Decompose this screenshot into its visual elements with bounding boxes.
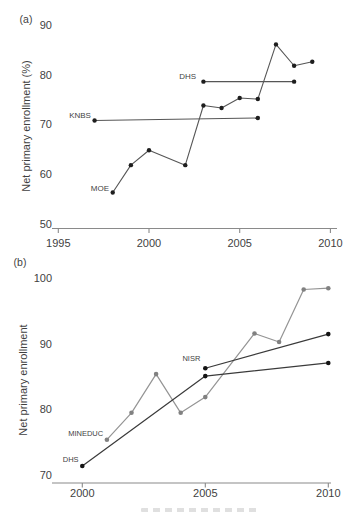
- x-tick-label: 2010: [318, 237, 342, 249]
- series-line-dhs: [82, 363, 328, 466]
- data-point-dhs: [203, 374, 208, 379]
- x-tick-label: 2010: [316, 487, 340, 499]
- data-point-mineduc: [252, 331, 257, 336]
- series-label-dhs: DHS: [63, 455, 79, 464]
- series-line-knbs: [95, 118, 258, 120]
- data-point-moe: [147, 148, 151, 152]
- data-point-moe: [183, 163, 187, 167]
- data-point-mineduc: [326, 286, 331, 291]
- data-point-moe: [111, 190, 115, 194]
- x-tick-label: 2005: [227, 237, 251, 249]
- data-point-mineduc: [105, 437, 110, 442]
- y-tick-label: 50: [40, 218, 52, 230]
- y-tick-label: 90: [40, 338, 52, 350]
- cropped-caption-remnant: [141, 508, 257, 512]
- data-point-moe: [129, 163, 133, 167]
- series-label-knbs: KNBS: [69, 111, 91, 120]
- x-tick-label: 2000: [137, 237, 161, 249]
- y-tick-label: 100: [34, 272, 52, 284]
- y-tick-label: 80: [40, 69, 52, 81]
- x-tick-label: 2000: [70, 487, 94, 499]
- data-point-mineduc: [129, 411, 134, 416]
- data-point-mineduc: [301, 287, 306, 292]
- panel-label: (b): [14, 256, 27, 268]
- series-line-nisr: [205, 334, 328, 368]
- data-point-moe: [256, 97, 260, 101]
- data-point-dhs: [326, 361, 331, 366]
- data-point-moe: [292, 64, 296, 68]
- y-tick-label: 80: [40, 403, 52, 415]
- data-point-mineduc: [203, 395, 208, 400]
- x-tick-label: 1995: [46, 237, 70, 249]
- data-point-knbs: [92, 118, 96, 122]
- y-tick-label: 60: [40, 168, 52, 180]
- data-point-knbs: [256, 116, 260, 120]
- data-point-moe: [219, 106, 223, 110]
- data-point-mineduc: [277, 340, 282, 345]
- data-point-dhs: [292, 79, 296, 83]
- y-tick-label: 70: [40, 469, 52, 481]
- series-label-nisr: NISR: [182, 354, 201, 363]
- series-label-moe: MOE: [91, 184, 109, 193]
- panel-label: (a): [20, 13, 33, 25]
- data-point-moe: [274, 42, 278, 46]
- net-primary-enrollment-charts: (a)Net primary enrollment (%)19952000200…: [0, 0, 356, 515]
- series-label-dhs: DHS: [179, 72, 196, 81]
- data-point-mineduc: [154, 372, 159, 377]
- data-point-dhs: [201, 79, 205, 83]
- data-point-nisr: [203, 366, 208, 371]
- data-point-nisr: [326, 332, 331, 337]
- series-label-mineduc: MINEDUC: [68, 429, 104, 438]
- data-point-dhs: [80, 464, 85, 469]
- x-tick-label: 2005: [193, 487, 217, 499]
- y-axis-title: Net primary enrollment: [17, 324, 29, 435]
- data-point-moe: [310, 60, 314, 64]
- data-point-moe: [238, 96, 242, 100]
- data-point-moe: [201, 103, 205, 107]
- y-tick-label: 90: [40, 19, 52, 31]
- y-axis-title: Net primary enrollment (%): [20, 60, 32, 191]
- series-line-mineduc: [107, 288, 328, 440]
- data-point-mineduc: [178, 411, 183, 416]
- figure-canvas: (a)Net primary enrollment (%)19952000200…: [0, 0, 356, 515]
- y-tick-label: 70: [40, 118, 52, 130]
